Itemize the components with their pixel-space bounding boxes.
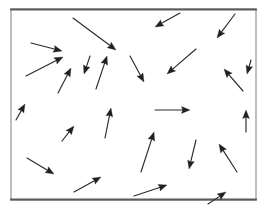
arrow-shaft: [134, 187, 160, 196]
vector-arrow: [16, 104, 25, 120]
vector-arrow: [141, 132, 155, 172]
arrow-shaft: [161, 13, 180, 24]
vector-arrow: [31, 43, 62, 52]
vector-arrow: [219, 144, 237, 172]
arrow-shaft: [191, 140, 196, 162]
arrow-shaft: [130, 56, 141, 76]
vector-arrow: [188, 140, 196, 169]
vector-arrow: [167, 49, 196, 74]
vector-arrow: [58, 68, 71, 93]
arrow-shaft: [229, 74, 243, 91]
vector-field-figure: [0, 0, 269, 216]
arrow-shaft: [73, 18, 110, 46]
arrow-head-icon: [18, 104, 25, 113]
arrow-head-icon: [219, 144, 226, 153]
vector-arrow: [155, 107, 190, 114]
vector-arrow: [243, 110, 250, 132]
vector-arrow: [83, 56, 90, 74]
vector-arrow: [208, 192, 226, 204]
arrow-head-icon: [217, 29, 225, 38]
arrow-head-icon: [155, 20, 164, 27]
arrow-shaft: [86, 56, 90, 67]
vector-arrow: [134, 184, 167, 196]
arrow-layer: [16, 13, 253, 204]
vector-arrow: [105, 108, 113, 138]
arrow-head-icon: [217, 192, 226, 200]
arrow-shaft: [96, 63, 105, 89]
arrow-shaft: [31, 43, 55, 49]
vector-arrow: [26, 57, 63, 76]
vector-arrow: [74, 177, 101, 192]
vector-arrow: [96, 56, 108, 89]
vector-arrow: [217, 14, 235, 38]
arrow-shaft: [221, 14, 235, 32]
arrow-shaft: [62, 131, 70, 141]
arrow-shaft: [16, 110, 22, 120]
vector-arrow: [155, 13, 180, 27]
arrow-shaft: [249, 60, 251, 67]
arrow-field-canvas: [0, 0, 269, 216]
vector-arrow: [62, 126, 74, 141]
arrow-head-icon: [107, 42, 116, 50]
arrow-shaft: [74, 180, 95, 192]
arrow-head-icon: [243, 110, 250, 119]
vector-arrow: [224, 69, 243, 91]
arrow-shaft: [26, 60, 57, 76]
arrow-shaft: [141, 139, 152, 172]
arrow-shaft: [105, 115, 110, 138]
vector-arrow: [27, 158, 54, 174]
arrow-shaft: [172, 49, 196, 69]
arrow-head-icon: [182, 107, 191, 114]
vector-arrow: [73, 18, 116, 50]
arrow-shaft: [58, 74, 68, 93]
arrow-head-icon: [66, 126, 74, 135]
arrow-shaft: [223, 150, 237, 172]
vector-arrow: [246, 60, 253, 74]
arrow-head-icon: [92, 177, 101, 184]
arrow-shaft: [27, 158, 48, 170]
vector-arrow: [130, 56, 144, 82]
arrow-head-icon: [45, 167, 54, 174]
